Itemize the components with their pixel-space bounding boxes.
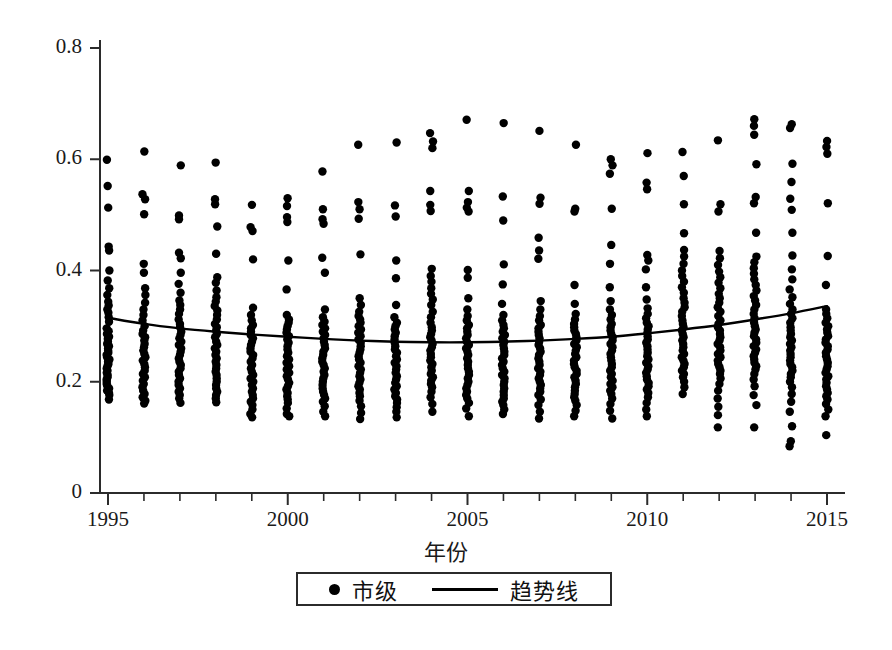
scatter-point [464, 294, 472, 302]
y-tick-label: 0.8 [20, 34, 82, 59]
scatter-point [750, 423, 758, 431]
scatter-point [249, 255, 257, 263]
scatter-point [714, 403, 722, 411]
scatter-point [141, 195, 149, 203]
scatter-point [606, 406, 614, 414]
scatter-point [392, 274, 400, 282]
scatter-point [176, 399, 184, 407]
scatter-point [392, 413, 400, 421]
scatter-point [321, 269, 329, 277]
scatter-point [752, 228, 760, 236]
y-tick-label: 0.6 [20, 145, 82, 170]
scatter-point [788, 265, 796, 273]
scatter-point [786, 195, 794, 203]
scatter-point [428, 400, 436, 408]
scatter-point [499, 410, 507, 418]
y-tick-label: 0 [20, 479, 82, 504]
scatter-point [248, 413, 256, 421]
scatter-point [426, 187, 434, 195]
legend-label-trend: 趋势线 [510, 573, 579, 605]
scatter-point [714, 136, 722, 144]
scatter-point [643, 185, 651, 193]
scatter-point [319, 205, 327, 213]
scatter-point [714, 207, 722, 215]
y-axis-ticks [90, 48, 100, 493]
x-tick-label: 2005 [423, 507, 513, 532]
scatter-point [465, 187, 473, 195]
scatter-point [750, 199, 758, 207]
scatter-point [571, 300, 579, 308]
scatter-point [140, 210, 148, 218]
scatter-point [679, 390, 687, 398]
scatter-point [140, 260, 148, 268]
scatter-point [104, 276, 112, 284]
scatter-point [788, 251, 796, 259]
scatter-point [105, 395, 113, 403]
scatter-point [318, 254, 326, 262]
scatter-point [140, 269, 148, 277]
scatter-point [608, 161, 616, 169]
scatter-point [103, 182, 111, 190]
scatter-point [680, 172, 688, 180]
scatter-point [680, 252, 688, 260]
scatter-point [788, 390, 796, 398]
x-tick-label: 2015 [782, 507, 872, 532]
legend-entry-trend: 趋势线 [432, 573, 579, 605]
scatter-point [103, 156, 111, 164]
scatter-point [176, 289, 184, 297]
scatter-point [177, 254, 185, 262]
scatter-point [750, 122, 758, 130]
scatter-point [714, 411, 722, 419]
scatter-point [535, 200, 543, 208]
scatter-point [140, 147, 148, 155]
scatter-point [785, 442, 793, 450]
scatter-point [606, 260, 614, 268]
scatter-point [714, 423, 722, 431]
scatter-point [465, 412, 473, 420]
line-marker-icon [432, 588, 498, 591]
scatter-point [787, 398, 795, 406]
y-tick-label: 0.2 [20, 368, 82, 393]
scatter-point [211, 158, 219, 166]
scatter-point [462, 116, 470, 124]
chart-legend: 市级 趋势线 [296, 572, 612, 606]
scatter-point [535, 246, 543, 254]
scatter-point [283, 218, 291, 226]
scatter-point [786, 408, 794, 416]
scatter-point [786, 124, 794, 132]
scatter-point [426, 207, 434, 215]
scatter-point [105, 246, 113, 254]
scatter-point [788, 275, 796, 283]
legend-label-scatter: 市级 [352, 573, 398, 605]
scatter-point [713, 394, 721, 402]
scatter-point [750, 382, 758, 390]
scatter-point [788, 228, 796, 236]
scatter-point [821, 412, 829, 420]
scatter-point [356, 250, 364, 258]
scatter-point [678, 148, 686, 156]
scatter-point [534, 233, 542, 241]
scatter-point [606, 297, 614, 305]
scatter-point [714, 386, 722, 394]
dot-marker-icon [329, 584, 340, 595]
scatter-point [248, 227, 256, 235]
scatter-point [643, 149, 651, 157]
scatter-point [392, 301, 400, 309]
scatter-point [141, 291, 149, 299]
scatter-point [285, 412, 293, 420]
scatter-point [716, 200, 724, 208]
scatter-point [177, 269, 185, 277]
scatter-point [788, 422, 796, 430]
scatter-point [570, 412, 578, 420]
scatter-point [606, 283, 614, 291]
scatter-point [392, 256, 400, 264]
scatter-point [213, 222, 221, 230]
scatter-point [426, 129, 434, 137]
scatter-point [752, 401, 760, 409]
scatter-point [428, 144, 436, 152]
scatter-point [321, 305, 329, 313]
scatter-point [570, 207, 578, 215]
scatter-point [823, 149, 831, 157]
scatter-point [824, 199, 832, 207]
scatter-point [642, 265, 650, 273]
